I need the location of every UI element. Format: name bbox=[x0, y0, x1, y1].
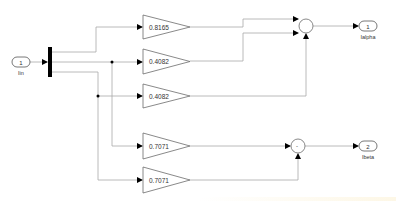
line-branch-gain5[interactable] bbox=[98, 96, 142, 180]
line-gain1-sum[interactable] bbox=[190, 19, 298, 27]
bottom-band bbox=[200, 197, 396, 201]
inport-iin[interactable]: 1 Iin bbox=[12, 57, 30, 76]
outport-label: Ialpha bbox=[361, 34, 377, 40]
inport-label: Iin bbox=[18, 70, 24, 76]
line-branch-gain4[interactable] bbox=[112, 62, 142, 146]
gain-block-3[interactable]: 0.4082 bbox=[143, 84, 190, 108]
sum-block-alpha[interactable] bbox=[299, 19, 313, 33]
signal-lines bbox=[30, 19, 358, 180]
branch-point bbox=[111, 61, 114, 64]
outport-ibeta[interactable]: 2 Ibeta bbox=[359, 141, 377, 160]
line-demux-gain3[interactable] bbox=[52, 72, 142, 96]
line-gain3-sum[interactable] bbox=[190, 34, 306, 96]
gain-block-5[interactable]: 0.7071 bbox=[143, 167, 190, 193]
line-gain5-sum[interactable] bbox=[190, 154, 298, 180]
gain-value: 0.8165 bbox=[149, 24, 169, 31]
gain-value: 0.4082 bbox=[149, 58, 169, 65]
branch-point bbox=[97, 95, 100, 98]
line-gain2-sum[interactable] bbox=[190, 33, 298, 61]
line-demux-gain1[interactable] bbox=[52, 27, 142, 52]
gain-block-1[interactable]: 0.8165 bbox=[143, 15, 190, 39]
sum-block-beta[interactable]: - bbox=[291, 139, 305, 153]
gain-block-2[interactable]: 0.4082 bbox=[143, 49, 190, 74]
gain-value: 0.4082 bbox=[149, 93, 169, 100]
outport-ialpha[interactable]: 1 Ialpha bbox=[359, 21, 377, 40]
sum-sign: - bbox=[296, 143, 298, 149]
gain-value: 0.7071 bbox=[149, 177, 169, 184]
outport-label: Ibeta bbox=[362, 154, 375, 160]
gain-value: 0.7071 bbox=[149, 143, 169, 150]
gain-block-4[interactable]: 0.7071 bbox=[143, 133, 190, 159]
demux-block[interactable] bbox=[48, 47, 52, 77]
diagram-canvas: 1 Iin 0.8165 0.4082 0.4082 0.7071 0.7071… bbox=[0, 0, 396, 201]
